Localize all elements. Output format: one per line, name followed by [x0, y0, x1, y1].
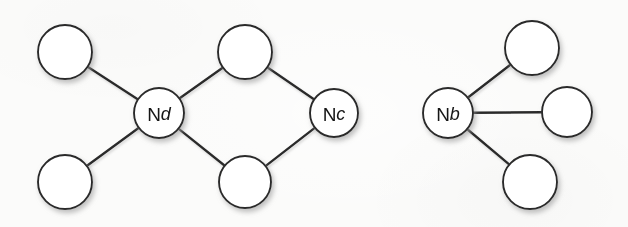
- peripheral-node-top-right: [505, 21, 559, 75]
- node-nd: Nd: [134, 88, 184, 138]
- node-nd-label: Nd: [147, 104, 172, 125]
- peripheral-node-middle-right: [542, 87, 592, 137]
- edge-bottom-middle-to-nd: [178, 128, 225, 166]
- edge-nb-to-middle-right: [473, 112, 543, 113]
- edge-nb-to-bottom-right: [467, 129, 510, 165]
- edge-bottom-middle-to-nc: [265, 127, 315, 166]
- diagram-canvas: NdNcNb: [0, 0, 628, 227]
- edge-top-middle-to-nd: [179, 67, 223, 99]
- edge-bottom-left-to-nd: [86, 128, 139, 167]
- peripheral-node-bottom-left: [38, 155, 92, 209]
- peripheral-node-bottom-right: [503, 155, 557, 209]
- peripheral-node-bottom-middle-circle: [219, 156, 271, 208]
- node-graph: NdNcNb: [0, 0, 628, 227]
- peripheral-node-top-middle: [218, 25, 272, 79]
- peripheral-node-top-left: [38, 25, 92, 79]
- node-nb-label: Nb: [436, 104, 460, 125]
- node-nc-label: Nc: [323, 104, 346, 125]
- node-nb: Nb: [423, 88, 473, 138]
- peripheral-node-top-left-circle: [38, 25, 92, 79]
- peripheral-node-bottom-left-circle: [38, 155, 92, 209]
- peripheral-node-bottom-middle: [219, 156, 271, 208]
- edge-top-left-to-nd: [87, 66, 138, 99]
- node-nc: Nc: [310, 89, 358, 137]
- nodes-layer: NdNcNb: [38, 21, 592, 209]
- edge-top-middle-to-nc: [267, 67, 315, 100]
- peripheral-node-top-right-circle: [505, 21, 559, 75]
- edge-nb-to-top-right: [467, 64, 511, 98]
- peripheral-node-bottom-right-circle: [503, 155, 557, 209]
- peripheral-node-middle-right-circle: [542, 87, 592, 137]
- peripheral-node-top-middle-circle: [218, 25, 272, 79]
